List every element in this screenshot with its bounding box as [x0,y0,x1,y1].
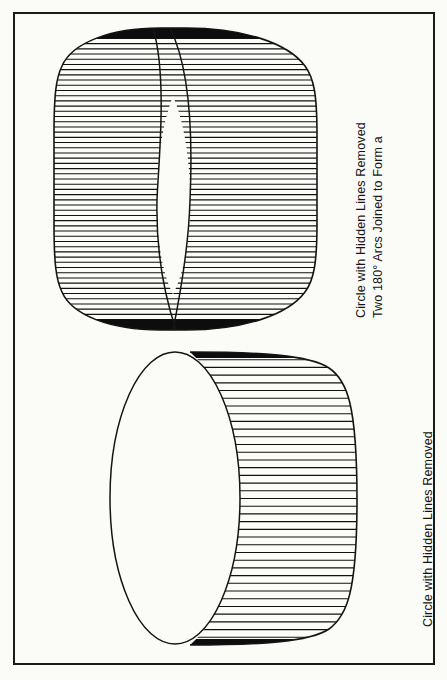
figure-circle-hidden-lines-removed [0,0,447,680]
bottom-figure-front-circle [110,352,240,644]
caption-two-arcs-line-2: Circle with Hidden Lines Removed [354,122,368,318]
caption-two-arcs-line-1: Two 180° Arcs Joined to Form a [371,136,385,318]
caption-circle-hidden-lines-removed: Circle with Hidden Lines Removed [421,431,435,627]
figure-page: Two 180° Arcs Joined to Form a Circle wi… [0,0,447,680]
